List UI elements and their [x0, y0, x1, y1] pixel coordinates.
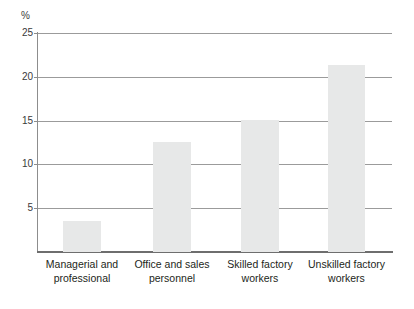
plot-area: 0510152025	[38, 33, 392, 252]
category-label-line-1: Managerial and	[37, 258, 127, 272]
y-tick-label-10: 10	[22, 159, 33, 169]
y-tick-label-25: 25	[22, 28, 33, 38]
category-label-line-1: Unskilled factory	[302, 258, 392, 272]
bar	[153, 142, 191, 252]
category-label-line-2: workers	[215, 272, 305, 286]
category-label: Office and salespersonnel	[127, 258, 217, 285]
category-label-line-2: professional	[37, 272, 127, 286]
bar	[241, 120, 279, 252]
bars-group	[38, 33, 392, 252]
category-label-line-2: workers	[302, 272, 392, 286]
category-label-line-1: Skilled factory	[215, 258, 305, 272]
category-label-line-1: Office and sales	[127, 258, 217, 272]
bar-chart: % 0510152025 Managerial andprofessionalO…	[0, 0, 414, 309]
category-label: Skilled factoryworkers	[215, 258, 305, 285]
x-axis-category-labels: Managerial andprofessionalOffice and sal…	[38, 258, 398, 304]
category-label: Managerial andprofessional	[37, 258, 127, 285]
category-label: Unskilled factoryworkers	[302, 258, 392, 285]
y-axis-unit-label: %	[21, 11, 30, 21]
bar	[328, 65, 365, 252]
bar	[63, 221, 101, 252]
y-tick-label-15: 15	[22, 116, 33, 126]
y-tick-label-20: 20	[22, 72, 33, 82]
y-tick-label-5: 5	[27, 203, 33, 213]
category-label-line-2: personnel	[127, 272, 217, 286]
